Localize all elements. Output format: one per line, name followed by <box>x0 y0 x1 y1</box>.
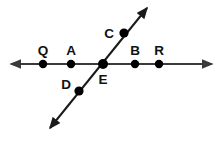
point-label-r: R <box>154 43 164 58</box>
geometry-canvas: QAEBRCD <box>0 0 221 144</box>
point-dot-a <box>67 60 75 68</box>
point-label-q: Q <box>38 43 49 58</box>
point-dot-e <box>98 59 108 69</box>
point-dot-q <box>39 60 47 68</box>
point-dot-b <box>131 60 139 68</box>
point-dot-c <box>119 28 128 37</box>
point-dot-d <box>74 86 83 95</box>
point-label-d: D <box>61 77 71 92</box>
point-label-c: C <box>104 26 114 41</box>
point-label-e: E <box>98 72 107 87</box>
point-labels-group: QAEBRCD <box>38 26 164 92</box>
point-dot-r <box>155 60 163 68</box>
point-label-b: B <box>130 43 140 58</box>
point-label-a: A <box>66 43 76 58</box>
diagonal-line-CD <box>50 8 147 128</box>
geometry-diagram: QAEBRCD <box>0 0 221 144</box>
